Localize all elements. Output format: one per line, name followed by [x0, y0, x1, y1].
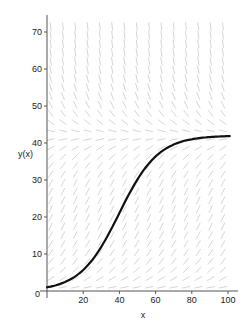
x-tick-label: 100 — [220, 295, 235, 305]
y-tick-label: 10 — [32, 249, 42, 259]
x-tick-label: 80 — [187, 295, 197, 305]
y-tick-label: 20 — [32, 212, 42, 222]
y-tick-label: 50 — [32, 101, 42, 111]
x-tick-label: 20 — [78, 295, 88, 305]
y-tick-label: 60 — [32, 64, 42, 74]
y-tick-label: 40 — [32, 138, 42, 148]
slope-field — [47, 22, 228, 288]
origin-label: 0 — [35, 289, 40, 299]
y-axis-label: y(x) — [18, 149, 33, 159]
x-tick-label: 40 — [114, 295, 124, 305]
slope-field-chart: 2040608010010203040506070 0 x y(x) — [0, 0, 251, 323]
x-tick-label: 60 — [151, 295, 161, 305]
y-tick-label: 70 — [32, 27, 42, 37]
y-tick-label: 30 — [32, 175, 42, 185]
x-axis-label: x — [141, 310, 146, 320]
solution-curve — [47, 136, 230, 287]
